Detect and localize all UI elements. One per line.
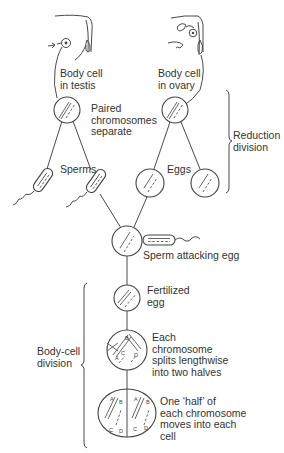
right-letter-a: A: [134, 396, 138, 402]
label-sperms: Sperms: [60, 164, 96, 176]
left-letter-b: B: [119, 399, 123, 405]
label-body-cell-ovary: Body cell in ovary: [158, 68, 201, 91]
left-letter-d: D: [119, 428, 123, 434]
right-letter-b: B: [146, 399, 150, 405]
label-body-cell-testis: Body cell in testis: [60, 68, 103, 91]
left-letter-c: C: [109, 427, 113, 433]
body-cell-division-bracket: [81, 283, 87, 448]
right-letter-d: D: [144, 425, 148, 431]
letter-d: D: [134, 352, 138, 358]
label-each-chromosome-splits: Each chromosome splits lengthwise into t…: [152, 332, 228, 378]
label-one-half-moves: One ‘half’ of each chromosome moves into…: [160, 396, 246, 442]
label-fertilized-egg: Fertilized egg: [147, 285, 190, 308]
label-sperm-attacking-egg: Sperm attacking egg: [143, 250, 239, 262]
female-body-outline-icon: [168, 16, 203, 106]
letter-a: A: [115, 355, 119, 361]
left-letter-a: A: [110, 396, 114, 402]
letter-b: B: [125, 335, 129, 341]
label-body-cell-division: Body-cell division: [37, 346, 80, 369]
letter-c: C: [121, 350, 125, 356]
label-paired-chromosomes: Paired chromosomes separate: [91, 103, 157, 138]
label-eggs: Eggs: [167, 164, 191, 176]
meiosis-diagram: A C D B A B C D A B C D: [0, 0, 284, 453]
label-reduction-division: Reduction division: [233, 130, 280, 153]
fertilized-egg-cell: [114, 285, 140, 311]
reduction-division-bracket: [226, 90, 232, 193]
dividing-cell: A B C D A B C D: [98, 389, 156, 437]
egg-2-cell: [191, 169, 219, 197]
sperm-1-icon: [13, 166, 55, 205]
testis-body-cell: [54, 97, 80, 123]
ovary-body-cell: [162, 97, 188, 123]
splitting-chromosome-cell: A C D B: [107, 330, 147, 370]
egg-1-cell: [136, 169, 164, 197]
diagram-artwork: A C D B A B C D A B C D: [0, 0, 284, 453]
right-letter-c: C: [133, 426, 137, 432]
